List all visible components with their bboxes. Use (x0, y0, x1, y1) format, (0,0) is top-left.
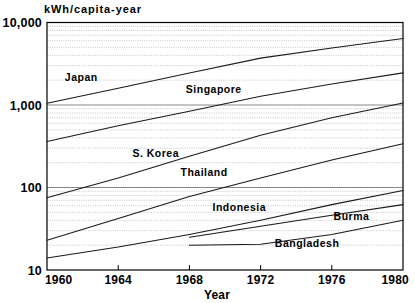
series-label-singapore: Singapore (186, 83, 242, 95)
x-tick-label-1968: 1968 (176, 273, 204, 287)
y-tick-label-1000: 1,000 (10, 99, 42, 113)
x-tick-label-1972: 1972 (247, 273, 275, 287)
y-axis-unit-label: kWh/capita-year (44, 3, 142, 15)
series-label-indonesia: Indonesia (213, 201, 267, 213)
chart-canvas: kWh/capita-year10,0001,00010010196019641… (0, 0, 415, 303)
series-label-japan: Japan (65, 71, 98, 83)
energy-per-capita-chart: kWh/capita-year10,0001,00010010196019641… (0, 0, 415, 303)
y-tick-label-10: 10 (28, 264, 42, 278)
series-label-s-korea: S. Korea (132, 147, 179, 159)
x-tick-label-1976: 1976 (318, 273, 346, 287)
series-label-burma: Burma (334, 210, 370, 222)
x-tick-label-1980: 1980 (382, 273, 410, 287)
y-tick-label-10000: 10,000 (3, 16, 42, 30)
series-label-bangladesh: Bangladesh (275, 237, 340, 249)
x-axis-title: Year (204, 288, 230, 302)
x-tick-label-1960: 1960 (45, 273, 73, 287)
x-tick-label-1964: 1964 (104, 273, 132, 287)
series-label-thailand: Thailand (181, 166, 228, 178)
y-tick-label-100: 100 (21, 181, 42, 195)
